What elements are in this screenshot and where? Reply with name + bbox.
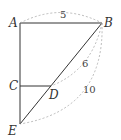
geometry-diagram: A B C D E 5 6 10 — [0, 0, 121, 140]
label-d: D — [48, 88, 59, 102]
label-b: B — [103, 16, 113, 30]
label-a: A — [8, 16, 18, 30]
segment-be — [20, 23, 102, 124]
length-bd: 6 — [82, 58, 88, 69]
label-c: C — [9, 79, 18, 93]
length-be: 10 — [83, 84, 96, 95]
length-ab: 5 — [60, 9, 66, 20]
label-e: E — [7, 124, 17, 138]
